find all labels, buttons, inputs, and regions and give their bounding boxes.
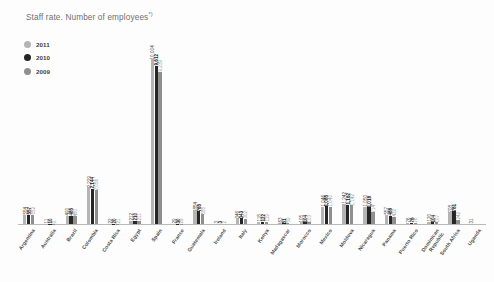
bar-rect (193, 210, 196, 224)
bar-rect (265, 222, 268, 224)
bar-group: 767676 (406, 223, 417, 224)
bar: 1,162 (346, 205, 349, 224)
bar-value-label: 242 (457, 212, 462, 220)
bar-value-label: 59 (287, 218, 292, 223)
bar-value-label: 107 (435, 214, 440, 222)
bar: 346 (236, 218, 239, 224)
bar-rect (406, 223, 409, 224)
bar-rect (201, 214, 204, 224)
bar-rect (91, 189, 94, 224)
bar: 557 (27, 215, 30, 224)
bar: 210 (133, 221, 136, 224)
bar: 708 (448, 212, 451, 224)
bar-rect (95, 190, 98, 224)
bar: 1,085 (325, 206, 328, 224)
bar-rect (389, 216, 392, 224)
bar-group: 120104107 (427, 222, 438, 224)
bar-rect (329, 207, 332, 224)
bar-rect (87, 187, 90, 224)
bar-group: 490485480 (66, 216, 77, 224)
bar: 2,229 (87, 187, 90, 224)
chart-title-text: Staff rate. Number of employees (26, 13, 148, 22)
bar-rect (236, 218, 239, 224)
bar-rect (73, 216, 76, 224)
bar-value-label: 781 (453, 203, 458, 211)
bar: 118 (257, 222, 260, 224)
bar-rect (23, 215, 26, 224)
bar-group: 1,2421,1621,142 (342, 204, 353, 224)
bar-group: 557488432 (385, 215, 396, 224)
chart-title: Staff rate. Number of employees*) (26, 11, 153, 22)
bar-rect (69, 216, 72, 224)
bar-group: 10,0049,6129,239 (151, 59, 162, 224)
bar-group: 635159 (278, 223, 289, 224)
bar-value-label: 1,040 (329, 195, 334, 207)
bar: 1,142 (350, 205, 353, 224)
bar: 212 (129, 221, 132, 224)
bar-value-label: 1,142 (350, 193, 355, 205)
bar: 554 (23, 215, 26, 224)
bar-group: 212210211 (129, 221, 140, 224)
bar-value-label: 21 (116, 218, 121, 223)
bar-group: 708781242 (448, 211, 459, 224)
bar-rect (392, 217, 395, 224)
bar: 557 (385, 215, 388, 224)
bar: 1,050 (363, 207, 366, 224)
bar-rect (350, 205, 353, 224)
bar-rect (385, 215, 388, 224)
bar-value-label: 211 (138, 213, 143, 220)
bar: 552 (31, 215, 34, 224)
bar-value-label: 302 (244, 211, 249, 219)
bar-rect (286, 223, 289, 224)
bar-rect (261, 222, 264, 224)
bar: 585 (201, 214, 204, 224)
bar-value-label: 2,056 (95, 178, 100, 190)
bar-rect (363, 207, 366, 224)
bar-value-label: 9 (53, 221, 58, 224)
bar-rect (155, 66, 158, 224)
bar: 302 (244, 219, 247, 224)
bar: 107 (435, 222, 438, 224)
x-axis-label: Argentina (0, 228, 36, 280)
bar-group: 854765585 (193, 210, 204, 224)
bar-value-label: 432 (393, 209, 398, 217)
bar-rect (342, 204, 345, 224)
bar-rect (371, 212, 374, 224)
bar: 1,242 (342, 204, 345, 224)
bar-rect (137, 221, 140, 224)
bar-rect (448, 212, 451, 224)
bar-rect (240, 218, 243, 224)
bar-rect (325, 206, 328, 224)
bar: 76 (406, 223, 409, 224)
bar-group: 346343302 (236, 218, 247, 224)
bar: 9,239 (158, 72, 161, 224)
bar-rect (257, 222, 260, 224)
bar-rect (414, 223, 417, 224)
bar-rect (321, 207, 324, 224)
bar: 119 (265, 222, 268, 224)
bar-rect (456, 220, 459, 224)
plot-area: 554557552111094904854802,2292,1442,05622… (18, 30, 486, 225)
bar-value-label: 552 (31, 207, 36, 215)
bar-rect (66, 216, 69, 224)
bar: 76 (410, 223, 413, 224)
bar-group: 31 (470, 224, 481, 225)
bar-value-label: 119 (265, 215, 270, 222)
bar: 103 (307, 222, 310, 224)
bar: 76 (414, 223, 417, 224)
bar-rect (244, 219, 247, 224)
bar: 343 (240, 218, 243, 224)
bar-rect (158, 72, 161, 224)
bar-rect (151, 59, 154, 224)
bar: 432 (392, 217, 395, 224)
x-axis-category-labels: ArgentinaAustraliaBrazilColombiaCosta Ri… (18, 228, 486, 282)
bar: 2,144 (91, 189, 94, 224)
bar: 490 (66, 216, 69, 224)
bar-value-label: 103 (308, 214, 313, 222)
bar-rect (129, 221, 132, 224)
bar-group: 2,2292,1442,056 (87, 187, 98, 224)
bar-rect (410, 223, 413, 224)
bar: 10,004 (151, 59, 154, 224)
bar-value-label: 585 (201, 207, 206, 215)
bar-value-label: 714 (372, 204, 377, 212)
